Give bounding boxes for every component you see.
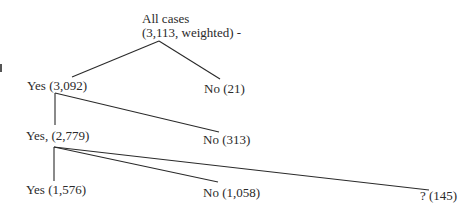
edge-root-no: [159, 41, 220, 79]
node-level2-yes: Yes, (2,779): [26, 129, 89, 143]
node-level3-yes: Yes (1,576): [26, 183, 86, 197]
node-level1-no: No (21): [204, 82, 245, 96]
edge-root-yes: [72, 41, 159, 77]
edge-l1yes-l2no: [55, 93, 219, 132]
edge-l2yes-l3no: [54, 147, 218, 182]
node-level3-no: No (1,058): [203, 186, 260, 200]
edge-l2yes-l3unknown: [54, 147, 429, 190]
root-node-label: All cases: [142, 12, 189, 26]
node-level1-yes: Yes (3,092): [27, 79, 87, 93]
node-level3-unknown: ? (145): [420, 189, 457, 203]
node-level2-no: No (313): [203, 133, 250, 147]
root-node-count: (3,113, weighted) -: [142, 26, 241, 40]
